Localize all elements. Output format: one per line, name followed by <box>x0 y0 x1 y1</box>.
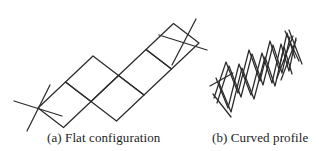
square-chain-a-square-5 <box>146 24 199 70</box>
zigzag-b-strand-up <box>214 33 295 98</box>
end-cross-a-upper-right-bar1 <box>159 35 207 50</box>
square-chain-a-square-3 <box>66 56 119 102</box>
end-cross-a-upper-right-bar2 <box>172 19 196 65</box>
panel-b-drawing <box>210 30 302 117</box>
panel-a-drawing <box>14 19 207 131</box>
figure-line-art <box>0 0 319 151</box>
square-chain-a-square-2 <box>91 76 144 122</box>
caption-panel-b: (b) Curved profile <box>212 130 308 145</box>
square-chain-a-square-1 <box>38 82 91 128</box>
figure-container: (a) Flat configuration (b) Curved profil… <box>0 0 319 151</box>
caption-panel-a: (a) Flat configuration <box>47 130 160 145</box>
square-chain-a-square-4 <box>119 50 172 96</box>
